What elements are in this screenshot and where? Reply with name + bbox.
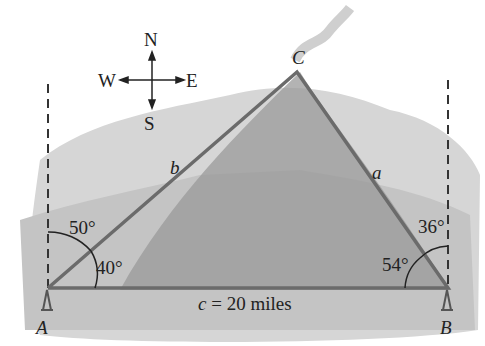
compass-icon [120, 52, 184, 108]
side-a: a [372, 163, 382, 182]
side-b: b [170, 158, 180, 177]
compass-south: S [144, 114, 155, 133]
side-c-label: c = 20 miles [198, 294, 292, 313]
compass-east: E [186, 71, 198, 90]
angle-A-50: 50° [69, 218, 96, 237]
vertex-B: B [440, 318, 452, 337]
angle-B-54: 54° [382, 255, 409, 274]
triangle-diagram: N S E W C A B b a c = 20 miles 50° 40° 3… [0, 0, 485, 346]
compass-north: N [144, 30, 158, 49]
compass-west: W [98, 71, 116, 90]
vertex-C: C [292, 48, 305, 67]
vertex-A: A [36, 318, 48, 337]
angle-B-36: 36° [418, 217, 445, 236]
angle-A-40: 40° [96, 258, 123, 277]
